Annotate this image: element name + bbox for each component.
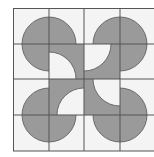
- pinwheel-diagram: [0, 0, 154, 157]
